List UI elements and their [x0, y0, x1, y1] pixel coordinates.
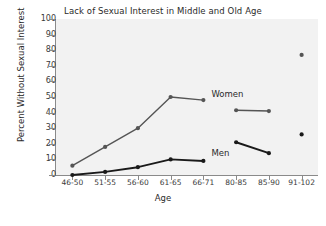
data-point	[234, 140, 238, 144]
data-point	[70, 164, 74, 168]
data-point	[267, 109, 271, 113]
series-layer	[0, 0, 326, 226]
data-point	[201, 159, 205, 163]
data-point	[169, 157, 173, 161]
series-line	[72, 97, 203, 166]
data-point	[70, 173, 74, 177]
data-point	[300, 132, 304, 136]
data-point	[136, 126, 140, 130]
series-annotation-men: Men	[211, 148, 229, 158]
data-point	[103, 170, 107, 174]
data-point	[201, 98, 205, 102]
data-point	[103, 145, 107, 149]
series-men	[70, 132, 303, 177]
data-point	[267, 151, 271, 155]
series-annotation-women: Women	[211, 89, 243, 99]
chart-figure: Lack of Sexual Interest in Middle and Ol…	[0, 0, 326, 226]
data-point	[136, 165, 140, 169]
data-point	[169, 95, 173, 99]
series-line	[236, 142, 269, 153]
data-point	[234, 108, 238, 112]
data-point	[300, 53, 304, 57]
series-line	[236, 110, 269, 111]
series-women	[70, 53, 303, 168]
